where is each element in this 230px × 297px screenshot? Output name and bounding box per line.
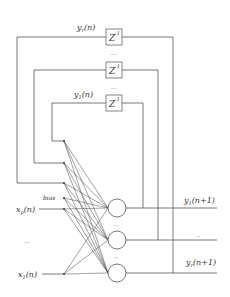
input-dots: ...: [24, 237, 30, 244]
delay-dots-1: ....: [110, 49, 118, 56]
label-xp: xp(n): [16, 205, 35, 216]
svg-text:y1(n+1): y1(n+1): [183, 196, 215, 206]
svg-text:-1: -1: [115, 96, 120, 102]
label-y1-out: y1(n+1): [183, 196, 215, 206]
svg-text:x1(n): x1(n): [18, 270, 37, 280]
delay-block-r: Z -1: [106, 29, 122, 45]
connections: [64, 141, 108, 274]
rnn-diagram: Z -1 .... Z -1 ... Z -1 yr(n) y1(n) xp(n…: [0, 0, 230, 297]
neuron-dots-2: ...: [113, 252, 119, 259]
svg-text:xp(n): xp(n): [16, 205, 35, 216]
label-bias: bias: [43, 194, 55, 201]
neuron-2: [108, 231, 126, 249]
feedback-loop-middle: [34, 70, 158, 240]
delay-block-1: Z -1: [106, 95, 122, 111]
neuron-dots-1: ...: [113, 220, 119, 227]
input-nodes: [63, 140, 65, 275]
label-x1: x1(n): [18, 270, 37, 280]
delay-dots-2: ...: [111, 83, 117, 90]
neuron-1: [108, 199, 126, 217]
svg-text:-1: -1: [115, 30, 120, 36]
label-yr-out: yr(n+1): [185, 258, 216, 268]
neuron-r: [108, 264, 126, 282]
delay-block-middle: Z -1: [106, 62, 122, 78]
feedback-loop-outer: [17, 37, 173, 273]
output-dots: ...: [195, 231, 201, 238]
svg-text:y1(n): y1(n): [73, 90, 93, 100]
svg-text:-1: -1: [115, 63, 120, 69]
svg-text:yr(n+1): yr(n+1): [185, 258, 216, 268]
svg-text:yr(n): yr(n): [76, 23, 95, 33]
label-y1-n: y1(n): [73, 90, 93, 100]
label-yr-n: yr(n): [76, 23, 95, 33]
